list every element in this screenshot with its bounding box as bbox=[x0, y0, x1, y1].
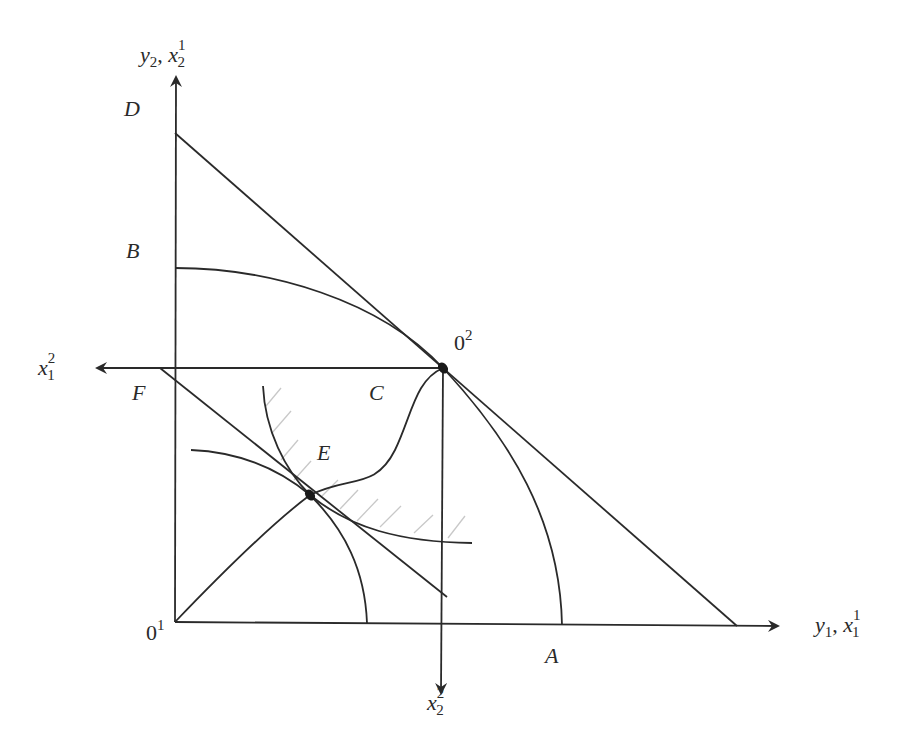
horizontal-axis-label: y1, x11 bbox=[813, 607, 860, 640]
price-line-D bbox=[175, 133, 737, 626]
x12-label: x21 bbox=[37, 350, 55, 383]
horizontal-axis bbox=[175, 622, 778, 626]
origin2-label: 02 bbox=[454, 327, 473, 355]
label-D: D bbox=[123, 96, 140, 121]
indifference-curve-2 bbox=[263, 386, 367, 623]
indifference-curve-1 bbox=[191, 450, 472, 543]
price-line-F bbox=[160, 368, 447, 597]
label-B: B bbox=[126, 238, 139, 263]
label-C: C bbox=[369, 380, 384, 405]
vertical-axis-label: y2, x12 bbox=[138, 37, 186, 70]
label-A: A bbox=[543, 643, 559, 668]
production-possibility-frontier bbox=[175, 268, 562, 625]
label-E: E bbox=[316, 440, 331, 465]
hatched-region bbox=[266, 388, 465, 538]
edgeworth-diagram: y2, x12 y1, x11 x21 x22 01 02 D B F C E … bbox=[0, 0, 910, 755]
x22-label: x22 bbox=[426, 685, 444, 718]
vertical-axis bbox=[175, 77, 176, 622]
label-F: F bbox=[131, 380, 146, 405]
x22-axis bbox=[441, 368, 443, 693]
origin1-label: 01 bbox=[146, 617, 165, 645]
